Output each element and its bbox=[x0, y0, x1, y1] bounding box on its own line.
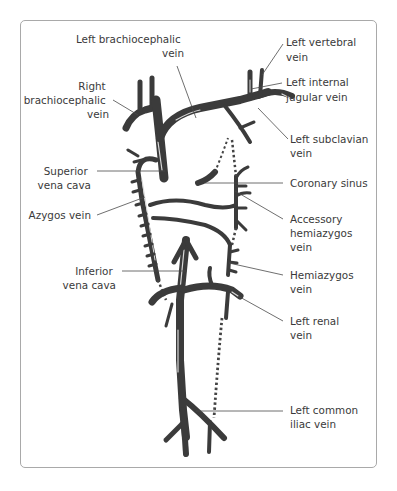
ascending-lumbar-dotted bbox=[214, 318, 222, 418]
label-coronary-sinus: Coronary sinus bbox=[290, 177, 368, 189]
labels: Left brachiocephalic vein Right brachioc… bbox=[24, 33, 372, 430]
upper-cross-connection bbox=[150, 201, 236, 208]
label-left-common-iliac-vein: Left common iliac vein bbox=[290, 404, 361, 430]
label-left-renal-vein: Left renal vein bbox=[290, 315, 342, 341]
gonadal-branch bbox=[209, 268, 212, 285]
label-azygos-vein: Azygos vein bbox=[29, 209, 91, 221]
coronary-sinus bbox=[198, 172, 215, 183]
label-left-internal-jugular-vein: Left internal jugular vein bbox=[285, 76, 352, 103]
vein-drawings bbox=[126, 70, 292, 454]
label-accessory-hemiazygos-vein: Accessory hemiazygos vein bbox=[290, 213, 356, 253]
label-left-vertebral-vein: Left vertebral vein bbox=[286, 36, 360, 63]
venous-system-diagram: Left brachiocephalic vein Right brachioc… bbox=[0, 0, 397, 491]
label-right-brachiocephalic-vein: Right brachiocephalic vein bbox=[24, 80, 109, 120]
label-inferior-vena-cava: Inferior vena cava bbox=[63, 265, 116, 291]
leader-lines bbox=[97, 44, 288, 411]
lower-cross-connection bbox=[153, 218, 230, 245]
left-renal-vein bbox=[184, 286, 240, 296]
label-left-subclavian-vein: Left subclavian vein bbox=[290, 133, 372, 159]
label-left-brachiocephalic-vein: Left brachiocephalic vein bbox=[76, 33, 184, 59]
label-hemiazygos-vein: Hemiazygos vein bbox=[290, 269, 357, 295]
right-iliac-branch bbox=[166, 424, 182, 440]
label-superior-vena-cava: Superior vena cava bbox=[38, 165, 91, 191]
left-vertebral-vein bbox=[260, 70, 262, 96]
